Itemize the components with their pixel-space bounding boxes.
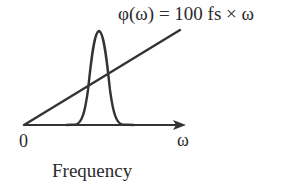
omega-axis-label: ω (177, 131, 189, 149)
phase-frequency-diagram (0, 0, 288, 189)
frequency-axis-title: Frequency (52, 161, 132, 180)
phase-formula-label: φ(ω) = 100 fs × ω (118, 4, 254, 23)
phase-line (24, 30, 180, 125)
origin-label: 0 (19, 132, 28, 150)
